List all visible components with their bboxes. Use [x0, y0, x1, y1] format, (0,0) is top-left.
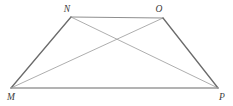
vertex-label-N: N	[63, 4, 71, 14]
diagonal-NP	[71, 17, 218, 88]
diagonal-MO	[11, 18, 163, 88]
trapezoid-outline-group	[11, 17, 218, 88]
diagonals-group	[11, 17, 218, 88]
edge-MN-left-leg	[11, 17, 71, 88]
trapezoid-diagram: M N O P	[0, 0, 233, 106]
vertex-label-M: M	[6, 92, 16, 102]
geometry-figure-container: M N O P	[0, 0, 233, 106]
edge-OP-right-leg	[163, 18, 218, 88]
vertex-label-O: O	[156, 4, 163, 14]
vertex-label-P: P	[218, 92, 225, 102]
edge-NO-top-base	[71, 17, 163, 18]
